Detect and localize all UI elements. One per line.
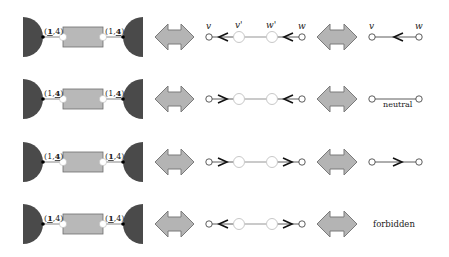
vertex-chain: vv'w'w — [206, 20, 306, 43]
left-half-disc — [23, 17, 43, 57]
gadget-rectangle — [63, 214, 103, 234]
result-vertex-v — [369, 96, 375, 102]
label-part-close: ) — [121, 152, 124, 161]
result-v-name: v — [369, 21, 374, 31]
left-port-label: (1,4) — [44, 88, 63, 98]
vertex-w — [299, 96, 305, 102]
neutral-label: neutral — [383, 100, 413, 109]
result-vertex-w — [416, 159, 422, 165]
vertex-chain — [206, 157, 305, 168]
double-arrow-icon — [317, 211, 357, 237]
vertex-w-prime — [267, 157, 278, 168]
left-port-label: (1,4) — [44, 26, 63, 36]
left-half-disc — [23, 142, 43, 182]
vertex-v-prime — [234, 157, 245, 168]
double-arrow-icon — [317, 149, 357, 175]
row-2: (1,4)(1,4)neutral — [23, 79, 422, 119]
double-arrow-icon — [155, 86, 194, 112]
double-arrow-icon — [155, 149, 194, 175]
right-half-disc — [123, 17, 143, 57]
right-half-disc — [123, 204, 143, 244]
double-arrow-icon — [317, 24, 357, 50]
vertex-w-name: w — [298, 21, 306, 31]
gadget-rectangle — [63, 89, 103, 109]
double-arrow-icon — [155, 211, 194, 237]
vertex-w-prime — [267, 94, 278, 105]
row-1: (1,4)(1,4)vv'w'wvw — [23, 17, 423, 57]
vertex-v — [206, 221, 212, 227]
left-half-disc — [23, 204, 43, 244]
right-port-label: (1,4) — [105, 151, 124, 161]
vertex-v-prime-name: v' — [235, 20, 243, 30]
vertex-chain — [206, 94, 305, 105]
vertex-v-name: v — [206, 21, 211, 31]
left-port-label: (1,4) — [44, 213, 63, 223]
result-vertex-v — [369, 34, 375, 40]
forbidden-label: forbidden — [373, 219, 415, 229]
vertex-v-prime — [234, 32, 245, 43]
right-half-disc — [123, 142, 143, 182]
double-arrow-icon — [155, 24, 194, 50]
double-arrow-icon — [317, 86, 357, 112]
vertex-w-prime-name: w' — [266, 20, 276, 30]
label-part-close: ) — [121, 27, 124, 36]
right-half-disc — [123, 79, 143, 119]
gadget-picture: (1,4)(1,4) — [23, 204, 143, 244]
right-port-label: (1,4) — [105, 213, 124, 223]
label-part-close: ) — [121, 214, 124, 223]
label-part-close: ) — [60, 89, 63, 98]
left-port-label: (1,4) — [44, 151, 63, 161]
vertex-v — [206, 34, 212, 40]
result-vertex-v — [369, 159, 375, 165]
gadget-picture: (1,4)(1,4) — [23, 79, 143, 119]
rows-container: (1,4)(1,4)vv'w'wvw(1,4)(1,4)neutral(1,4)… — [23, 17, 423, 244]
diagram-canvas: (1,4)(1,4)vv'w'wvw(1,4)(1,4)neutral(1,4)… — [0, 0, 449, 257]
result-vertex-w — [416, 96, 422, 102]
right-port-label: (1,4) — [105, 88, 124, 98]
result — [369, 158, 422, 166]
gadget-rectangle — [63, 152, 103, 172]
result-vertex-w — [416, 34, 422, 40]
vertex-w — [299, 159, 305, 165]
vertex-v — [206, 96, 212, 102]
label-part-close: ) — [60, 214, 63, 223]
vertex-w-prime — [267, 219, 278, 230]
gadget-picture: (1,4)(1,4) — [23, 17, 143, 57]
vertex-v-prime — [234, 219, 245, 230]
result: neutral — [369, 96, 422, 109]
vertex-w-prime — [267, 32, 278, 43]
left-half-disc — [23, 79, 43, 119]
vertex-w — [299, 221, 305, 227]
vertex-chain — [206, 219, 305, 230]
gadget-rectangle — [63, 27, 103, 47]
result: forbidden — [373, 219, 415, 229]
vertex-w — [299, 34, 305, 40]
result-w-name: w — [415, 21, 423, 31]
label-part-close: ) — [60, 152, 63, 161]
label-part-close: ) — [121, 89, 124, 98]
result: vw — [369, 21, 423, 41]
vertex-v-prime — [234, 94, 245, 105]
label-part-close: ) — [60, 27, 63, 36]
vertex-v — [206, 159, 212, 165]
right-port-label: (1,4) — [105, 26, 124, 36]
row-4: (1,4)(1,4)forbidden — [23, 204, 415, 244]
row-3: (1,4)(1,4) — [23, 142, 422, 182]
gadget-picture: (1,4)(1,4) — [23, 142, 143, 182]
